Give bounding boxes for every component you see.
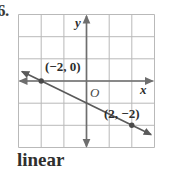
exercise-number: 6. [0, 2, 9, 19]
x-axis-label: x [139, 82, 147, 97]
point-a-label: (−2, 0) [45, 59, 81, 74]
y-axis-label: y [73, 15, 81, 30]
exercise-figure: 6. [0, 0, 185, 178]
answer-text: linear [17, 150, 65, 169]
point-b-label: (2, −2) [104, 106, 140, 121]
data-point-b [129, 123, 134, 128]
data-point-a [39, 78, 44, 83]
graph-svg: y x O (−2, 0) (2, −2) [18, 14, 155, 148]
origin-label: O [90, 85, 100, 100]
coordinate-plane-graph: y x O (−2, 0) (2, −2) [18, 14, 155, 148]
